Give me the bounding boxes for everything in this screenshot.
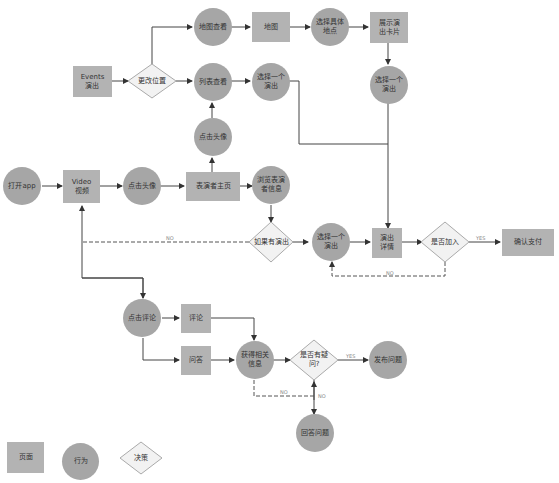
- action-choose-show-2: 选择一个 演出: [370, 66, 408, 104]
- decision-join-label: 是否加入: [421, 235, 469, 249]
- decision-has-show-label: 如果有演出: [249, 235, 293, 249]
- action-browse-info: 浏览表演 者信息: [252, 166, 290, 204]
- action-choose-location: 选择具体 地点: [311, 8, 349, 46]
- edge-label-yes-join: YES: [476, 235, 485, 241]
- action-choose-show-1: 选择一个 演出: [252, 63, 290, 101]
- page-confirm-pay: 确认支付: [502, 229, 554, 256]
- page-video: Video 视频: [63, 170, 100, 203]
- decision-has-question-label: 是否有疑 问?: [290, 350, 338, 370]
- page-show-card: 展示演 出卡片: [370, 12, 408, 43]
- page-events: Events 演出: [73, 66, 112, 97]
- action-list-view: 列表查看: [194, 63, 232, 101]
- edge-label-no-join: NO: [386, 270, 394, 276]
- action-open-app: 打开app: [3, 167, 41, 205]
- page-map: 地图: [252, 12, 290, 42]
- page-show-detail: 演出 详情: [372, 228, 402, 258]
- edge-label-no-has-show: NO: [166, 235, 174, 241]
- action-map-view: 地图查看: [194, 8, 232, 46]
- page-comment: 评论: [181, 304, 211, 333]
- edge-label-no-question-right: NO: [318, 393, 326, 399]
- legend-page: 页面: [7, 442, 44, 473]
- action-post-question: 发布问题: [369, 341, 407, 379]
- decision-change-location-label: 更改位置: [128, 74, 176, 88]
- action-click-avatar-up: 点击头像: [194, 118, 232, 156]
- page-performer-home: 表演者主页: [186, 172, 240, 201]
- legend-action: 行为: [62, 443, 99, 480]
- legend-decision: 决策: [120, 451, 162, 465]
- edge-label-no-question-left: NO: [280, 389, 288, 395]
- action-click-avatar: 点击头像: [123, 167, 161, 205]
- action-click-comment: 点击评论: [123, 299, 161, 337]
- action-answer-question: 回答问题: [296, 414, 334, 452]
- action-get-info: 获得相关 信息: [236, 341, 274, 379]
- page-qa: 问答: [181, 346, 211, 375]
- action-choose-show-3: 选择一个 演出: [312, 223, 350, 261]
- edge-label-yes-question: YES: [346, 353, 355, 359]
